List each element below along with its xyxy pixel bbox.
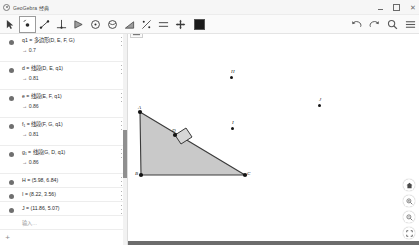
view-controls <box>403 179 415 239</box>
stylebar-toggle-icon[interactable] <box>130 34 143 38</box>
algebra-row-content: I = (8.22, 3.56) <box>22 190 117 199</box>
angle-tool[interactable] <box>121 16 138 33</box>
zoom-in-icon[interactable] <box>403 195 415 207</box>
hamburger-menu-icon[interactable] <box>404 19 416 31</box>
bottom-status-bar <box>128 241 419 245</box>
algebra-definition: I = (8.22, 3.56) <box>22 191 117 199</box>
algebra-row-content: J = (11.86, 5.07) <box>22 204 117 213</box>
algebra-view: q1 = 多边形(D, E, F, G) → 0.7 d = 线段(D, E, … <box>0 34 128 245</box>
visibility-dot-icon[interactable] <box>9 68 14 73</box>
label-b: B <box>135 171 138 176</box>
algebra-definition: H = (5.98, 6.84) <box>22 177 117 185</box>
algebra-definition: f₁ = 线段(F, G, q1) <box>22 121 117 129</box>
fullscreen-icon[interactable] <box>403 227 415 239</box>
visibility-dot-cell[interactable] <box>0 92 22 101</box>
title-bar: GeoGebra 经典 ✕ <box>0 0 419 15</box>
algebra-row[interactable]: H = (5.98, 6.84) <box>0 174 127 188</box>
close-icon[interactable]: ✕ <box>408 3 417 12</box>
algebra-row[interactable]: I = (8.22, 3.56) <box>0 188 127 202</box>
visibility-dot-cell[interactable] <box>0 36 22 45</box>
visibility-dot-cell[interactable] <box>0 64 22 73</box>
move-tool[interactable] <box>2 16 19 33</box>
label-a: A <box>138 105 141 110</box>
algebra-definition: J = (11.86, 5.07) <box>22 205 117 213</box>
visibility-dot-icon[interactable] <box>9 124 14 129</box>
algebra-row[interactable]: q1 = 多边形(D, E, F, G) → 0.7 <box>0 34 127 62</box>
algebra-row[interactable]: d = 线段(D, E, q1) → 0.81 <box>0 62 127 90</box>
main-toolbar <box>0 15 419 34</box>
workspace: q1 = 多边形(D, E, F, G) → 0.7 d = 线段(D, E, … <box>0 34 419 245</box>
algebra-row-content: f₁ = 线段(F, G, q1) → 0.81 <box>22 120 117 138</box>
toolbar-right-actions <box>350 15 416 34</box>
circle-tool[interactable] <box>87 16 104 33</box>
reflect-tool[interactable] <box>138 16 155 33</box>
label-i: I <box>232 120 234 125</box>
algebra-value: → 0.7 <box>22 46 117 54</box>
color-swatch[interactable] <box>194 19 205 30</box>
geometry-canvas[interactable] <box>128 34 418 244</box>
window-controls: ✕ <box>376 0 417 15</box>
algebra-definition: e = 线段(E, F, q1) <box>22 93 117 101</box>
vertex-a-point <box>138 110 142 114</box>
algebra-definition: q1 = 多边形(D, E, F, G) <box>22 37 117 45</box>
algebra-value: → 0.81 <box>22 74 117 82</box>
label-h: H <box>231 69 235 74</box>
point-tool[interactable] <box>19 16 36 33</box>
label-j: J <box>319 97 321 102</box>
redo-icon[interactable] <box>368 19 380 31</box>
visibility-dot-cell[interactable] <box>0 148 22 157</box>
algebra-input-row[interactable]: 输入… <box>0 216 127 230</box>
line-tool[interactable] <box>36 16 53 33</box>
visibility-dot-cell[interactable] <box>0 176 22 185</box>
conic-tool[interactable] <box>104 16 121 33</box>
algebra-value: → 0.81 <box>22 130 117 138</box>
algebra-value: → 0.86 <box>22 158 117 166</box>
triangle-abc <box>140 112 245 175</box>
visibility-dot-cell[interactable] <box>0 204 22 213</box>
algebra-row[interactable]: J = (11.86, 5.07) <box>0 202 127 216</box>
add-input-button[interactable]: + <box>3 233 12 242</box>
search-icon[interactable] <box>386 19 398 31</box>
graphics-view[interactable]: A B C D H I J <box>128 34 419 245</box>
geogebra-logo-icon <box>3 4 10 11</box>
label-d: D <box>172 128 176 133</box>
algebra-row[interactable]: f₁ = 线段(F, G, q1) → 0.81 <box>0 118 127 146</box>
undo-icon[interactable] <box>350 19 362 31</box>
algebra-row-content: d = 线段(D, E, q1) → 0.81 <box>22 64 117 82</box>
algebra-input-placeholder[interactable]: 输入… <box>22 219 37 226</box>
geogebra-window: GeoGebra 经典 ✕ <box>0 0 419 245</box>
visibility-dot-icon[interactable] <box>9 96 14 101</box>
algebra-row[interactable]: g₁ = 线段(G, D, q1) → 0.86 <box>0 146 127 174</box>
algebra-row-content: e = 线段(E, F, q1) → 0.86 <box>22 92 117 110</box>
algebra-row-content: H = (5.98, 6.84) <box>22 176 117 185</box>
window-title: GeoGebra 经典 <box>13 4 49 11</box>
zoom-out-icon[interactable] <box>403 211 415 223</box>
maximize-icon[interactable] <box>392 3 401 12</box>
minimize-icon[interactable] <box>376 3 385 12</box>
polygon-tool[interactable] <box>70 16 87 33</box>
algebra-row[interactable]: e = 线段(E, F, q1) → 0.86 <box>0 90 127 118</box>
vertex-b-point <box>139 173 143 177</box>
visibility-dot-cell[interactable] <box>0 190 22 199</box>
visibility-dot-cell[interactable] <box>0 120 22 129</box>
algebra-scrollbar[interactable] <box>123 34 127 245</box>
visibility-dot-icon[interactable] <box>9 194 14 199</box>
home-icon[interactable] <box>403 179 415 191</box>
label-c: C <box>247 171 250 176</box>
title-bar-left: GeoGebra 经典 <box>3 4 49 11</box>
visibility-dot-icon[interactable] <box>9 180 14 185</box>
slider-tool[interactable] <box>155 16 172 33</box>
visibility-dot-icon[interactable] <box>9 40 14 45</box>
algebra-value: → 0.86 <box>22 102 117 110</box>
visibility-dot-icon[interactable] <box>9 208 14 213</box>
algebra-row-content: g₁ = 线段(G, D, q1) → 0.86 <box>22 148 117 166</box>
move-graphics-tool[interactable] <box>172 16 189 33</box>
perpendicular-line-tool[interactable] <box>53 16 70 33</box>
algebra-row-content: q1 = 多边形(D, E, F, G) → 0.7 <box>22 36 117 54</box>
visibility-dot-icon[interactable] <box>9 152 14 157</box>
vertex-d-point <box>173 133 177 137</box>
algebra-scrollbar-thumb[interactable] <box>123 130 127 178</box>
algebra-definition: g₁ = 线段(G, D, q1) <box>22 149 117 157</box>
algebra-definition: d = 线段(D, E, q1) <box>22 65 117 73</box>
